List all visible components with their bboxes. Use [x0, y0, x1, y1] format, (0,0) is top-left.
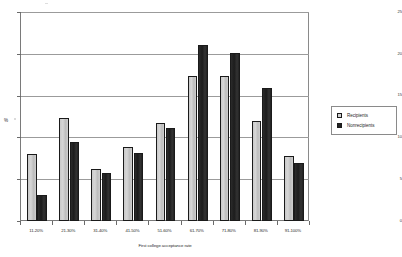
- bar-recipients: [252, 121, 262, 221]
- y-tick-label: 10: [388, 135, 402, 139]
- bar-nonrecipients: [294, 163, 304, 221]
- legend-swatch-icon-recipients: [337, 113, 342, 118]
- x-tick-mark: [20, 221, 21, 225]
- bar-recipients: [188, 76, 198, 221]
- y-tick-label: 0: [388, 219, 402, 223]
- bar-nonrecipients: [134, 153, 144, 221]
- bar-recipients: [59, 118, 69, 221]
- bar-recipients: [156, 123, 166, 221]
- x-tick-mark: [181, 221, 182, 225]
- y-axis-title: %: [4, 118, 8, 123]
- legend-swatch-icon-nonrecipients: [337, 123, 342, 128]
- x-tick-mark: [213, 221, 214, 225]
- x-tick-mark: [52, 221, 53, 225]
- x-tick-mark: [84, 221, 85, 225]
- bar-nonrecipients: [166, 128, 176, 221]
- x-tick-mark: [245, 221, 246, 225]
- bar-nonrecipients: [230, 53, 240, 221]
- bar-recipients: [284, 156, 294, 221]
- legend-label-nonrecipients: Nonrecipients: [347, 123, 375, 128]
- y-tick-label: 5: [388, 177, 402, 181]
- bar-recipients: [123, 147, 133, 221]
- legend-entry-recipients: Recipients: [337, 113, 368, 118]
- x-tick-mark: [277, 221, 278, 225]
- x-tick-mark: [148, 221, 149, 225]
- y-tick-label: 15: [388, 93, 402, 97]
- bar-recipients: [220, 76, 230, 221]
- legend-entry-nonrecipients: Nonrecipients: [337, 123, 375, 128]
- bar-recipients: [27, 154, 37, 221]
- y-tick-label: 20: [388, 52, 402, 56]
- bar-nonrecipients: [37, 195, 47, 221]
- bar-recipients: [91, 169, 101, 221]
- bar-nonrecipients: [198, 45, 208, 221]
- legend: Recipients Nonrecipients: [331, 106, 397, 135]
- x-tick-mark: [309, 221, 310, 225]
- x-tick-label: 91-100%: [273, 228, 313, 233]
- bars-layer: [21, 12, 309, 221]
- scan-artifact: [14, 118, 16, 120]
- bar-nonrecipients: [102, 173, 112, 221]
- legend-label-recipients: Recipients: [347, 113, 368, 118]
- x-tick-mark: [116, 221, 117, 225]
- x-axis-title: First college acceptance rate: [0, 243, 330, 248]
- bar-chart: 0510152025 % 11-20%21-30%31-40%41-50%51-…: [0, 0, 402, 257]
- bar-nonrecipients: [70, 142, 80, 221]
- bar-nonrecipients: [262, 88, 272, 221]
- scan-artifact: [45, 3, 48, 4]
- y-tick-label: 25: [388, 10, 402, 14]
